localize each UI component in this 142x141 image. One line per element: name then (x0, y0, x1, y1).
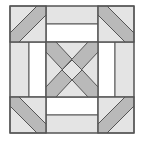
left-strip (10, 42, 46, 97)
center-square (46, 42, 98, 97)
top-strip (46, 6, 98, 42)
bottom-strip (46, 97, 98, 133)
corner-top-right (98, 6, 134, 42)
corner-top-left (10, 6, 46, 42)
corner-bottom-left (10, 97, 46, 133)
right-strip (98, 42, 134, 97)
corner-bottom-right (98, 97, 134, 133)
